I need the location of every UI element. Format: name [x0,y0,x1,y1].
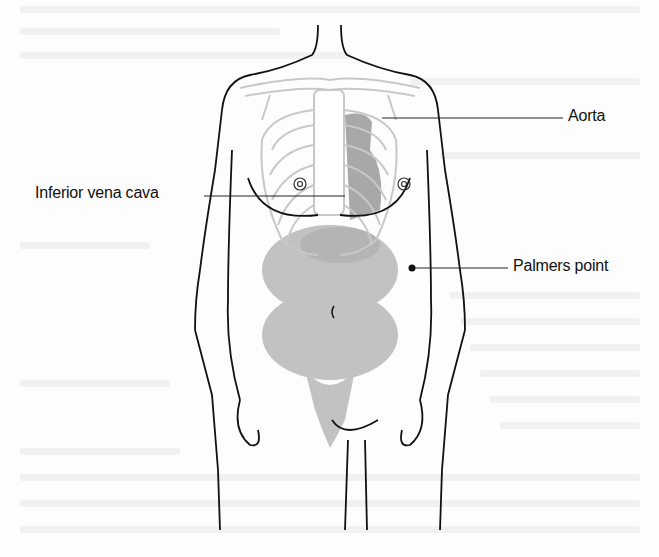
palmers-point-marker [409,265,416,272]
diagram-page: Aorta Inferior vena cava Palmers point [0,0,659,557]
palmers-point-label: Palmers point [513,257,608,275]
abdominal-organs [262,225,398,448]
inferior-vena-cava-label: Inferior vena cava [35,184,159,202]
torso-illustration [0,0,659,557]
aorta-label: Aorta [568,107,605,125]
